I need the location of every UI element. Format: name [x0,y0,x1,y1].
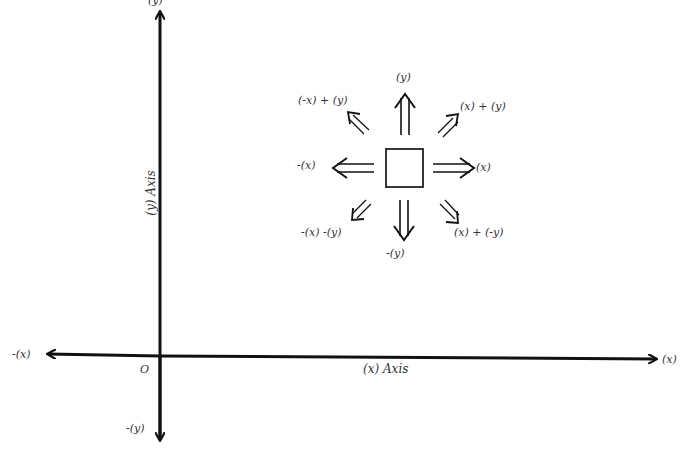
direction-down-left-label: -(x) -(y) [301,227,342,238]
origin-label: O [140,364,149,375]
direction-left-label: -(x) [297,160,316,171]
arrow-up-icon [395,94,415,135]
arrow-down-right-icon [440,200,459,223]
pos-y-axis-label: (y) [148,0,163,6]
direction-down-right-label: (x) + (-y) [454,227,504,238]
direction-up-label: (y) [396,72,411,83]
y-axis-title: (y) Axis [144,163,158,223]
center-square [386,149,423,187]
pos-x-axis-label: (x) [662,354,677,365]
arrow-down-left-icon [352,200,371,220]
direction-up-right-label: (x) + (y) [460,101,506,112]
arrow-down-icon [394,200,414,240]
coordinate-diagram [0,0,687,450]
arrow-up-right-icon [438,114,458,137]
arrow-up-left-icon [348,112,369,134]
x-axis-title: (x) Axis [363,363,408,375]
direction-right-label: (x) [476,162,491,173]
neg-y-axis-label: -(y) [126,423,145,434]
x-axis [48,354,656,359]
direction-up-left-label: (-x) + (y) [298,95,348,106]
arrow-right-icon [433,158,474,178]
neg-x-axis-label: -(x) [12,349,31,360]
arrow-left-icon [333,158,374,178]
direction-down-label: -(y) [386,248,405,259]
